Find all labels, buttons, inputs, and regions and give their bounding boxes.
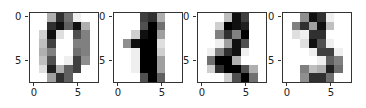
pixel-cell (198, 22, 207, 31)
pixel-cell (232, 65, 241, 74)
pixel-cell (148, 65, 157, 74)
pixel-cell (292, 73, 301, 82)
pixel-cell (326, 22, 335, 31)
pixel-cell (207, 65, 216, 74)
pixel-cell (165, 48, 174, 57)
pixel-cell (207, 73, 216, 82)
y-tick-label-5: 5 (183, 56, 189, 66)
pixel-cell (56, 39, 65, 48)
pixel-cell (309, 30, 318, 39)
y-tick-5 (109, 60, 112, 61)
pixel-cell (232, 56, 241, 65)
pixel-cell (198, 65, 207, 74)
pixel-cell (258, 48, 267, 57)
pixel-cell (174, 13, 183, 22)
y-tick-label-0: 0 (268, 12, 274, 22)
pixel-cell (30, 56, 39, 65)
pixel-cell (317, 22, 326, 31)
x-tick-0 (117, 83, 118, 86)
pixel-cell (300, 56, 309, 65)
pixel-cell (81, 56, 90, 65)
pixel-cell (283, 73, 292, 82)
pixel-cell (224, 56, 233, 65)
pixel-cell (30, 22, 39, 31)
pixel-cell (224, 30, 233, 39)
y-tick-0 (278, 16, 281, 17)
pixel-cell (81, 39, 90, 48)
pixel-cell (292, 48, 301, 57)
pixel-cell (334, 65, 343, 74)
pixel-cell (81, 65, 90, 74)
x-tick-5 (77, 83, 78, 86)
pixel-cell (56, 73, 65, 82)
y-tick-label-5: 5 (268, 56, 274, 66)
pixel-cell (114, 22, 123, 31)
pixel-cell (30, 13, 39, 22)
pixel-cell (64, 39, 73, 48)
pixel-cell (123, 30, 132, 39)
pixel-cell (224, 48, 233, 57)
y-tick-label-0: 0 (183, 12, 189, 22)
pixel-cell (258, 56, 267, 65)
pixel-cell (81, 13, 90, 22)
pixel-cell (30, 48, 39, 57)
digit-panel-3: 0 5 0 5 (282, 12, 352, 83)
pixel-cell (283, 30, 292, 39)
pixel-cell (56, 30, 65, 39)
pixel-cell (114, 48, 123, 57)
pixel-cell (198, 39, 207, 48)
pixel-cell (64, 48, 73, 57)
pixel-cell (148, 73, 157, 82)
pixel-cell (283, 65, 292, 74)
x-tick-5 (161, 83, 162, 86)
pixel-cell (148, 22, 157, 31)
y-tick-5 (193, 60, 196, 61)
pixel-cell (73, 65, 82, 74)
pixel-cell (334, 73, 343, 82)
pixel-cell (165, 39, 174, 48)
x-tick-5 (330, 83, 331, 86)
pixel-cell (215, 73, 224, 82)
pixel-cell (300, 65, 309, 74)
pixel-cell (215, 39, 224, 48)
y-tick-5 (25, 60, 28, 61)
pixel-cell (224, 73, 233, 82)
pixel-cell (157, 39, 166, 48)
pixel-cell (207, 48, 216, 57)
pixel-cell (198, 30, 207, 39)
pixel-cell (232, 73, 241, 82)
x-tick-0 (286, 83, 287, 86)
pixel-cell (165, 56, 174, 65)
pixel-cell (174, 22, 183, 31)
pixel-cell (165, 73, 174, 82)
pixel-cell (334, 48, 343, 57)
pixel-cell (215, 30, 224, 39)
digit-panel-0: 0 5 0 5 (29, 12, 99, 83)
pixel-cell (39, 13, 48, 22)
pixel-cell (300, 73, 309, 82)
pixel-cell (47, 22, 56, 31)
pixel-cell (114, 39, 123, 48)
pixel-cell (73, 56, 82, 65)
x-tick-label-5: 5 (157, 88, 167, 98)
pixel-cell (343, 39, 352, 48)
pixel-cell (343, 48, 352, 57)
y-tick-0 (25, 16, 28, 17)
pixel-cell (123, 73, 132, 82)
pixel-cell (131, 22, 140, 31)
pixel-cell (47, 65, 56, 74)
pixel-cell (140, 22, 149, 31)
pixel-cell (249, 65, 258, 74)
pixel-cell (241, 65, 250, 74)
pixel-cell (39, 65, 48, 74)
pixel-cell (114, 13, 123, 22)
pixel-cell (317, 30, 326, 39)
pixel-cell (81, 30, 90, 39)
pixel-cell (326, 39, 335, 48)
y-tick-0 (109, 16, 112, 17)
pixel-cell (309, 56, 318, 65)
pixel-cell (343, 73, 352, 82)
pixel-cell (249, 39, 258, 48)
pixel-cell (165, 22, 174, 31)
pixel-cell (148, 39, 157, 48)
